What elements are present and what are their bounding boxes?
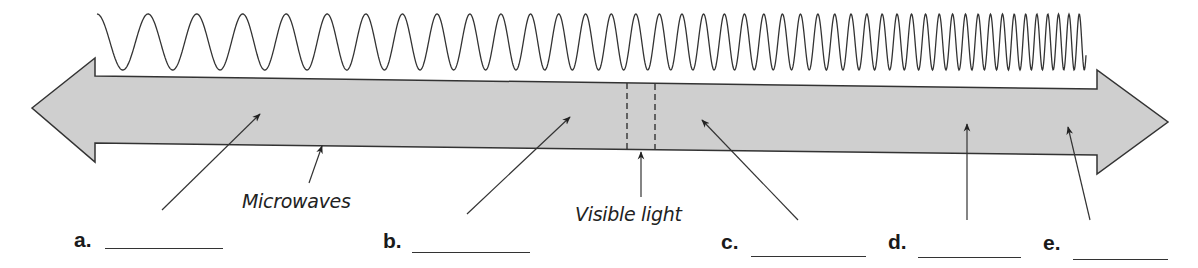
answer-blank-b[interactable] xyxy=(412,252,530,253)
pointer-arrow-microwaves xyxy=(309,146,322,183)
spectrum-arrow xyxy=(32,58,1168,174)
answer-blank-a[interactable] xyxy=(105,248,223,249)
answer-blank-c[interactable] xyxy=(751,256,866,257)
label-visible-light: Visible light xyxy=(575,203,682,225)
blank-letter-e: e. xyxy=(1043,231,1061,255)
label-microwaves: Microwaves xyxy=(242,190,351,212)
answer-blank-d[interactable] xyxy=(918,257,1021,258)
blank-letter-d: d. xyxy=(888,230,907,254)
spectrum-diagram xyxy=(0,0,1198,268)
blank-letter-a: a. xyxy=(74,228,92,252)
blank-letter-b: b. xyxy=(383,229,402,253)
blank-letter-c: c. xyxy=(721,230,739,254)
answer-blank-e[interactable] xyxy=(1073,259,1168,260)
em-wave xyxy=(97,14,1086,70)
